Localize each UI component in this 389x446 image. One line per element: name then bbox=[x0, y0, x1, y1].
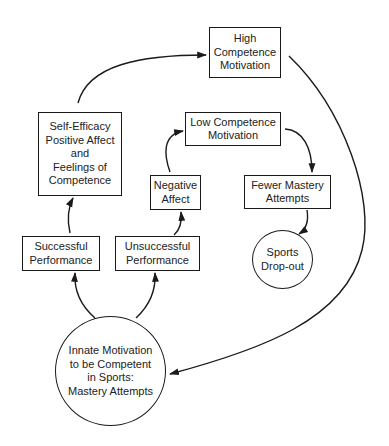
node-label: Innate Motivation to be Competent in Spo… bbox=[68, 344, 153, 398]
node-high-competence-motivation: High Competence Motivation bbox=[209, 27, 281, 78]
node-self-efficacy: Self-Efficacy Positive Affect and Feelin… bbox=[38, 112, 122, 196]
node-low-competence-motivation: Low Competence Motivation bbox=[185, 112, 281, 146]
node-successful-performance: Successful Performance bbox=[22, 236, 100, 271]
node-label: High Competence Motivation bbox=[214, 32, 276, 73]
node-label: Low Competence Motivation bbox=[190, 116, 276, 143]
edge-unsuccessful-to-negative bbox=[174, 212, 181, 235]
edge-high-to-innate bbox=[170, 56, 365, 374]
node-innate-motivation: Innate Motivation to be Competent in Spo… bbox=[55, 316, 166, 426]
edge-successful-to-self-efficacy bbox=[68, 198, 73, 233]
node-unsuccessful-performance: Unsuccessful Performance bbox=[115, 236, 200, 271]
edge-fewer-to-dropout bbox=[299, 210, 308, 234]
node-label: Unsuccessful Performance bbox=[125, 240, 190, 267]
node-fewer-mastery-attempts: Fewer Mastery Attempts bbox=[244, 175, 331, 209]
edge-self-efficacy-to-high bbox=[78, 55, 206, 103]
node-label: Successful Performance bbox=[30, 240, 93, 267]
node-label: Self-Efficacy Positive Affect and Feelin… bbox=[46, 120, 115, 188]
node-label: Fewer Mastery Attempts bbox=[251, 179, 324, 206]
edge-innate-to-successful bbox=[75, 273, 95, 318]
node-label: Negative Affect bbox=[154, 179, 197, 206]
edge-negative-to-low bbox=[166, 131, 183, 172]
node-sports-drop-out: Sports Drop-out bbox=[252, 230, 313, 289]
competence-motivation-diagram: High Competence Motivation Self-Efficacy… bbox=[0, 0, 389, 446]
edge-low-to-fewer bbox=[285, 129, 312, 172]
node-negative-affect: Negative Affect bbox=[150, 175, 201, 210]
edge-innate-to-unsuccessful bbox=[136, 273, 155, 318]
node-label: Sports Drop-out bbox=[261, 246, 304, 273]
